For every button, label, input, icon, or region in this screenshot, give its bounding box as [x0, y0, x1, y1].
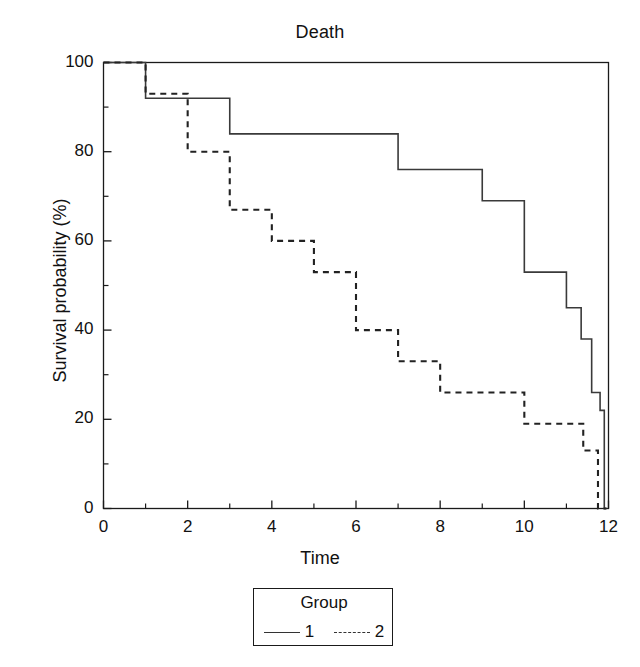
legend-swatch-solid-icon [264, 632, 300, 633]
legend-entry[interactable]: 2 [334, 622, 384, 642]
x-tick-label: 6 [336, 517, 376, 537]
x-tick-label: 10 [504, 517, 544, 537]
y-tick-label: 100 [48, 52, 94, 72]
x-tick-label: 2 [168, 517, 208, 537]
x-tick-label: 12 [589, 517, 629, 537]
y-tick-label: 60 [48, 230, 94, 250]
y-tick-label: 40 [48, 319, 94, 339]
x-tick-label: 8 [420, 517, 460, 537]
plot-area [0, 0, 640, 667]
legend-label: 2 [375, 622, 384, 642]
legend-label: 1 [305, 622, 314, 642]
legend-entries: 12 [254, 620, 394, 644]
series-lines [104, 63, 607, 509]
y-tick-label: 20 [48, 408, 94, 428]
x-tick-label: 0 [84, 517, 124, 537]
legend-title: Group [254, 593, 394, 613]
series-line-2 [104, 63, 607, 509]
survival-chart-figure: Death Survival probability (%) Time 0246… [0, 0, 640, 667]
legend: Group 12 [253, 588, 393, 646]
y-tick-label: 0 [48, 498, 94, 518]
y-tick-label: 80 [48, 141, 94, 161]
legend-entry[interactable]: 1 [264, 622, 314, 642]
legend-swatch-dashed-icon [334, 632, 370, 633]
x-tick-label: 4 [252, 517, 292, 537]
